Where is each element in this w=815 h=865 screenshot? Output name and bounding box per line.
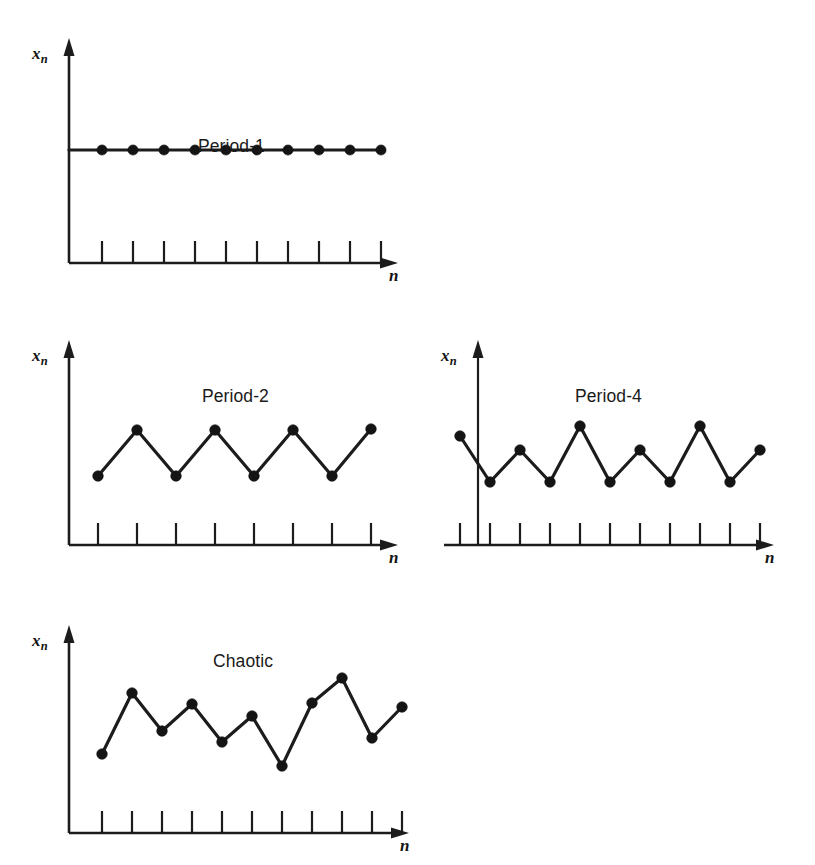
panel-period-4: xn n Period-4 [430,330,805,570]
x-axis-label-text: n [389,266,398,285]
y-axis-arrow-icon [64,625,75,643]
panel-title-chaotic: Chaotic [213,651,273,672]
x-axis-ticks [460,523,760,545]
x-axis-label-text: n [389,548,398,567]
y-axis-arrow-icon [64,340,75,358]
y-axis-label-subscript: n [41,52,48,66]
y-axis-label-symbol: x [32,346,41,365]
panel-title-text: Period-2 [202,386,269,406]
x-axis-label-text: n [765,548,774,567]
y-axis-label-subscript: n [41,639,48,653]
series-line-period-2 [98,429,371,476]
y-axis-arrow-icon [473,340,484,358]
y-axis-arrow-icon [64,38,75,56]
y-axis-label-chaotic: xn [32,631,48,654]
panel-title-text: Period-4 [575,386,642,406]
series-markers-period-4 [455,421,766,488]
y-axis-label-subscript: n [450,354,457,368]
series-line-period-4 [460,426,760,482]
y-axis-label-symbol: x [32,631,41,650]
x-axis-ticks [102,811,402,833]
y-axis-label-subscript: n [41,354,48,368]
y-axis-label-symbol: x [32,44,41,63]
y-axis-label-period-4: xn [441,346,457,369]
panel-title-text: Period-1 [198,136,265,156]
figure-root: xn n Period-1 [0,0,815,865]
y-axis-label-period-1: xn [32,44,48,67]
x-axis-label-chaotic: n [400,836,409,856]
panel-period-1: xn n Period-1 [40,28,420,288]
y-axis-label-symbol: x [441,346,450,365]
period-1-plot [40,28,420,288]
period-4-plot [430,330,805,570]
x-axis-label-period-2: n [389,548,398,568]
panel-title-period-1: Period-1 [198,136,265,157]
panel-title-period-4: Period-4 [575,386,642,407]
panel-chaotic: xn n Chaotic [40,615,440,860]
panel-title-period-2: Period-2 [202,386,269,407]
period-2-plot [40,330,420,570]
x-axis-ticks [98,523,371,545]
x-axis-ticks [102,241,381,263]
x-axis-label-period-1: n [389,266,398,286]
x-axis-label-text: n [400,836,409,855]
panel-title-text: Chaotic [213,651,273,671]
series-line-chaotic [102,678,402,766]
y-axis-label-period-2: xn [32,346,48,369]
series-markers-chaotic [97,673,408,772]
panel-period-2: xn n Period-2 [40,330,420,570]
x-axis-label-period-4: n [765,548,774,568]
